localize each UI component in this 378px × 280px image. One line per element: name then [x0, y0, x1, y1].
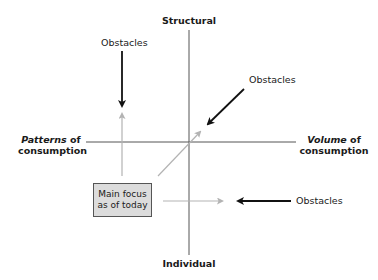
main-focus-line1: Main focus	[98, 189, 146, 200]
axis-label-patterns: Patterns of consumption	[18, 134, 84, 156]
main-focus-line2: as of today	[97, 200, 147, 211]
axis-label-volume-italic: Volume	[307, 134, 347, 145]
axis-label-patterns-rest: of	[67, 134, 81, 145]
axis-label-structural: Structural	[159, 15, 219, 26]
obstacles-label-upper-right: Obstacles	[249, 74, 296, 85]
axis-label-volume: Volume of consumption	[299, 134, 369, 156]
axis-label-volume-rest: of	[347, 134, 361, 145]
axis-label-patterns-italic: Patterns	[21, 134, 66, 145]
obstacle-arrow-diagonal	[208, 89, 244, 124]
consumption-diagram: Structural Individual Patterns of consum…	[0, 0, 378, 280]
axis-label-patterns-line2: consumption	[18, 145, 84, 156]
gray-arrow-diagonal	[158, 132, 200, 176]
main-focus-box: Main focus as of today	[93, 183, 152, 217]
obstacles-label-upper-left: Obstacles	[101, 37, 148, 48]
obstacles-label-lower-right: Obstacles	[296, 195, 343, 206]
axis-label-individual: Individual	[156, 258, 222, 269]
axis-label-volume-line2: consumption	[299, 145, 369, 156]
